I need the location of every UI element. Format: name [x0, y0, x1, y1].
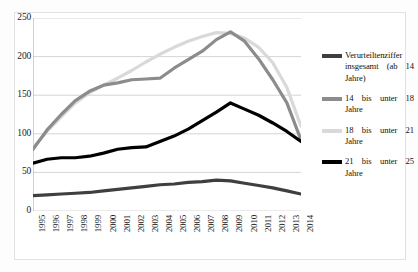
y-tick-label: 50 — [3, 167, 31, 177]
series-line — [33, 103, 301, 163]
x-tick-label: 2013 — [291, 215, 301, 232]
x-tick-label: 2012 — [277, 215, 287, 232]
x-tick-label: 2011 — [263, 215, 273, 232]
x-tick-label: 2003 — [150, 215, 160, 232]
y-axis: 050100150200250 — [0, 18, 31, 211]
y-tick-label: 150 — [3, 90, 31, 100]
legend-label: 21 bis unter 25 Jahre — [345, 156, 414, 179]
x-tick-label: 2007 — [206, 215, 216, 232]
x-tick-label: 2008 — [220, 215, 230, 232]
y-tick-label: 100 — [3, 129, 31, 139]
plot-area — [33, 18, 301, 211]
x-tick-label: 2005 — [178, 215, 188, 232]
y-tick-label: 200 — [3, 52, 31, 62]
legend-swatch-icon — [322, 129, 342, 133]
series-line — [33, 33, 301, 148]
plot-svg — [33, 18, 301, 211]
chart-figure: 050100150200250 199519961997199819992000… — [0, 0, 418, 272]
legend-entry[interactable]: 21 bis unter 25 Jahre — [322, 156, 414, 179]
series-line — [33, 180, 301, 195]
y-tick-label: 0 — [3, 206, 31, 216]
chart-legend: Verurteiltenziffer insgesamt (ab 14 Jahr… — [322, 50, 414, 188]
x-tick-label: 2000 — [108, 215, 118, 232]
x-tick-label: 2010 — [249, 215, 259, 232]
x-tick-label: 1998 — [79, 215, 89, 232]
legend-entry[interactable]: 18 bis unter 21 Jahre — [322, 125, 414, 148]
x-tick-label: 2001 — [122, 215, 132, 232]
x-axis: 1995199619971998199920002001200220032004… — [33, 213, 301, 263]
x-tick-label: 2009 — [234, 215, 244, 232]
x-tick-label: 1995 — [37, 215, 47, 232]
legend-swatch-icon — [322, 54, 342, 58]
legend-label: 14 bis unter 18 Jahre — [345, 93, 414, 116]
x-tick-label: 2004 — [164, 215, 174, 232]
x-tick-label: 1999 — [93, 215, 103, 232]
x-tick-label: 1997 — [65, 215, 75, 232]
legend-label: Verurteiltenziffer insgesamt (ab 14 Jahr… — [345, 50, 414, 84]
x-tick-label: 2014 — [305, 215, 315, 232]
legend-label: 18 bis unter 21 Jahre — [345, 125, 414, 148]
y-tick-label: 250 — [3, 13, 31, 23]
legend-swatch-icon — [322, 97, 342, 101]
legend-entry[interactable]: 14 bis unter 18 Jahre — [322, 93, 414, 116]
x-tick-label: 2006 — [192, 215, 202, 232]
x-tick-label: 2002 — [136, 215, 146, 232]
legend-entry[interactable]: Verurteiltenziffer insgesamt (ab 14 Jahr… — [322, 50, 414, 84]
legend-swatch-icon — [322, 160, 342, 164]
x-tick-label: 1996 — [51, 215, 61, 232]
